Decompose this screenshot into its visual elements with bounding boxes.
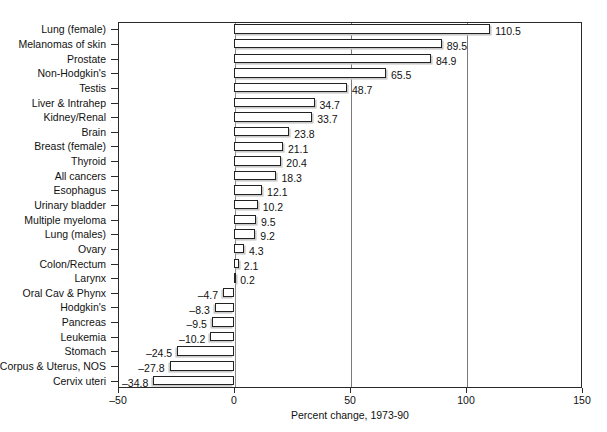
bar: 21.1	[234, 142, 283, 151]
y-axis-tick	[111, 249, 118, 250]
y-axis-tick-label: Ovary	[78, 243, 106, 255]
y-axis-tick	[111, 44, 118, 45]
bar-body	[177, 346, 234, 355]
y-axis-tick	[111, 205, 118, 206]
y-axis-tick	[111, 220, 118, 221]
bar-body	[234, 200, 258, 209]
bar-row: 33.7	[118, 110, 582, 125]
y-axis-tick-label: Cervix uteri	[53, 375, 106, 387]
x-axis-tick-label: –50	[109, 394, 127, 407]
y-axis-tick-label: Breast (female)	[34, 140, 106, 152]
bar-body	[234, 24, 490, 33]
bar-row: 34.7	[118, 95, 582, 110]
y-axis-tick	[111, 161, 118, 162]
y-axis-tick	[111, 117, 118, 118]
bar-row: 48.7	[118, 81, 582, 96]
y-axis-tick-label: Hodgkin's	[60, 301, 106, 313]
bar: –8.3	[215, 303, 234, 312]
bar-body	[234, 142, 283, 151]
bar-body	[170, 361, 234, 370]
bar-body	[210, 332, 234, 341]
bar-body	[234, 83, 347, 92]
y-axis-tick	[111, 88, 118, 89]
bar: 9.2	[234, 229, 255, 238]
y-axis-tick-label: Colon/Rectum	[39, 258, 106, 270]
bar-row: –34.8	[118, 373, 582, 388]
bar: 0.2	[234, 273, 235, 282]
bars-layer: 110.589.584.965.548.734.733.723.821.120.…	[118, 22, 582, 388]
y-axis-tick-label: Urinary bladder	[34, 199, 106, 211]
bar: 4.3	[234, 244, 244, 253]
x-axis-tick-label: 50	[344, 394, 356, 407]
y-axis-tick	[111, 190, 118, 191]
y-axis-tick-label: Liver & Intrahep	[32, 97, 106, 109]
bar-row: 110.5	[118, 22, 582, 37]
y-axis-tick	[111, 337, 118, 338]
bar-row: –27.8	[118, 359, 582, 374]
y-axis-tick	[111, 381, 118, 382]
bar: 110.5	[234, 24, 490, 33]
y-axis-tick-label: Stomach	[65, 345, 106, 357]
y-axis-tick-label: Kidney/Renal	[44, 111, 106, 123]
y-axis-tick	[111, 176, 118, 177]
x-axis-tick-label: 150	[573, 394, 591, 407]
bar: 20.4	[234, 156, 281, 165]
bar-body	[223, 288, 234, 297]
y-axis-tick-label: Melanomas of skin	[18, 38, 106, 50]
bar-body	[234, 112, 312, 121]
bar: –9.5	[212, 317, 234, 326]
bar: –24.5	[177, 346, 234, 355]
bar: 34.7	[234, 98, 315, 107]
bar: –34.8	[153, 376, 234, 385]
bar-row: 65.5	[118, 66, 582, 81]
bar-body	[234, 98, 315, 107]
y-axis-tick	[111, 103, 118, 104]
x-axis-ticks: –50050100150	[118, 388, 582, 394]
bar-row: 89.5	[118, 37, 582, 52]
y-axis-tick-label: Larynx	[74, 272, 106, 284]
bar-row: –24.5	[118, 344, 582, 359]
y-axis-tick	[111, 73, 118, 74]
y-axis-tick-label: Brain	[81, 126, 106, 138]
bar-row: 2.1	[118, 256, 582, 271]
bar: 18.3	[234, 171, 276, 180]
y-axis-labels: Lung (female)Melanomas of skinProstateNo…	[0, 22, 114, 388]
y-axis-tick	[111, 234, 118, 235]
bar-row: 9.5	[118, 212, 582, 227]
x-axis-tick	[118, 388, 119, 393]
bar-row: 23.8	[118, 124, 582, 139]
bar-body	[234, 244, 244, 253]
bar: 10.2	[234, 200, 258, 209]
bar-body	[234, 185, 262, 194]
y-axis-tick	[111, 59, 118, 60]
y-axis-tick	[111, 307, 118, 308]
bar-row: –10.2	[118, 329, 582, 344]
bar: 89.5	[234, 39, 442, 48]
bar: 33.7	[234, 112, 312, 121]
bar-body	[153, 376, 234, 385]
bar-row: 10.2	[118, 198, 582, 213]
bar-body	[234, 156, 281, 165]
percent-change-bar-chart: Lung (female)Melanomas of skinProstateNo…	[0, 0, 607, 432]
bar-body	[234, 215, 256, 224]
bar-body	[234, 171, 276, 180]
x-axis-title: Percent change, 1973-90	[118, 409, 582, 421]
bar: 65.5	[234, 68, 386, 77]
y-axis-tick-label: Pancreas	[62, 316, 106, 328]
bar-row: 84.9	[118, 51, 582, 66]
bar-row: 12.1	[118, 183, 582, 198]
bar-body	[234, 259, 239, 268]
y-axis-tick-label: Lung (female)	[41, 23, 106, 35]
bar-body	[212, 317, 234, 326]
bar-body	[234, 68, 386, 77]
y-axis-tick-label: Prostate	[67, 53, 106, 65]
bar-row: 4.3	[118, 242, 582, 257]
bar-row: 9.2	[118, 227, 582, 242]
x-axis-tick	[582, 388, 583, 393]
bar: 23.8	[234, 127, 289, 136]
x-axis-tick	[466, 388, 467, 393]
bar-row: 0.2	[118, 271, 582, 286]
y-axis-tick-label: Esophagus	[53, 184, 106, 196]
y-axis-tick	[111, 366, 118, 367]
bar-body	[234, 229, 255, 238]
